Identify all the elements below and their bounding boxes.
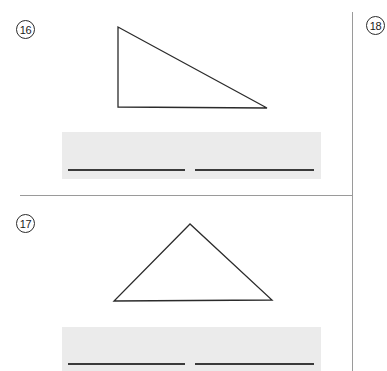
problem-number-17: 17 [16, 214, 35, 233]
answer-line-right[interactable] [195, 363, 314, 365]
answer-box-17 [62, 327, 321, 371]
isosceles-triangle-shape [114, 224, 272, 301]
problem-number-16: 16 [16, 20, 35, 39]
right-triangle-figure [105, 18, 285, 123]
isosceles-triangle-figure [103, 213, 288, 313]
worksheet-page: 16 17 18 [0, 0, 387, 371]
answer-line-left[interactable] [68, 169, 185, 171]
answer-box-16 [62, 132, 321, 179]
answer-line-right[interactable] [195, 169, 314, 171]
vertical-divider [352, 12, 353, 371]
right-triangle-shape [118, 27, 267, 108]
horizontal-divider [20, 195, 353, 196]
problem-number-18: 18 [366, 16, 385, 35]
answer-line-left[interactable] [68, 363, 185, 365]
